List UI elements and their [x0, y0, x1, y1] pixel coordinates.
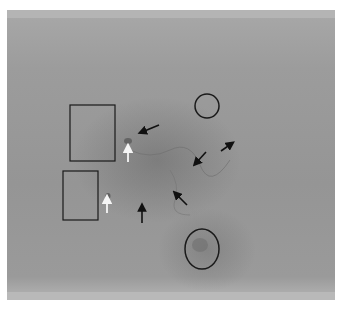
arrow-4-icon — [221, 144, 231, 151]
vessel — [130, 147, 230, 176]
lesion-spot — [192, 238, 208, 252]
circle-upper-right — [195, 94, 219, 118]
lesion-spot — [106, 193, 111, 199]
arrow-1-icon — [142, 125, 159, 132]
annotation-overlay — [0, 0, 343, 311]
rect-upper-left — [70, 105, 115, 161]
vessel — [170, 170, 190, 215]
lesion-spot — [124, 138, 132, 144]
arrow-5-icon — [176, 194, 187, 205]
rect-lower-left — [63, 171, 98, 220]
arrow-3-icon — [196, 152, 206, 163]
